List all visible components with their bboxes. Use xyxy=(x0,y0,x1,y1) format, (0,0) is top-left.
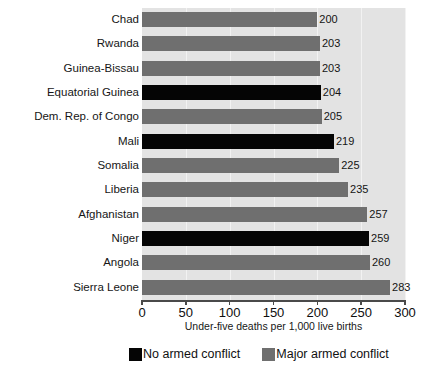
bar-value-label: 257 xyxy=(367,206,387,222)
bar-value-label: 200 xyxy=(317,11,337,27)
category-label: Afghanistan xyxy=(0,203,139,226)
bar-row: 257 xyxy=(142,203,405,226)
category-label: Chad xyxy=(0,8,139,31)
bar-row: 259 xyxy=(142,227,405,250)
legend-label-major-armed-conflict: Major armed conflict xyxy=(275,348,389,361)
bar-value-label: 204 xyxy=(321,84,341,100)
x-tick-label-250: 250 xyxy=(350,305,372,321)
bar-mali[interactable] xyxy=(142,134,334,149)
category-label: Dem. Rep. of Congo xyxy=(0,105,139,128)
bar-value-label: 219 xyxy=(334,133,354,149)
category-label: Niger xyxy=(0,227,139,250)
bar-value-label: 205 xyxy=(322,108,342,124)
bar-row: 260 xyxy=(142,251,405,274)
category-label: Equatorial Guinea xyxy=(0,81,139,104)
category-label: Rwanda xyxy=(0,32,139,55)
category-label: Sierra Leone xyxy=(0,276,139,299)
legend-entry-no-armed-conflict[interactable]: No armed conflict xyxy=(129,348,240,361)
legend-entry-major-armed-conflict[interactable]: Major armed conflict xyxy=(262,348,389,361)
bar-niger[interactable] xyxy=(142,231,369,246)
bar-liberia[interactable] xyxy=(142,182,348,197)
x-tick-label-150: 150 xyxy=(263,305,285,321)
x-tick-label-300: 300 xyxy=(394,305,416,321)
bar-value-label: 225 xyxy=(339,157,359,173)
gridline-300 xyxy=(405,8,406,300)
x-tick-label-50: 50 xyxy=(179,305,193,321)
category-label: Mali xyxy=(0,130,139,153)
category-label: Somalia xyxy=(0,154,139,177)
chart-legend: No armed conflict Major armed conflict xyxy=(129,345,409,363)
bar-rwanda[interactable] xyxy=(142,36,320,51)
bar-angola[interactable] xyxy=(142,255,370,270)
bar-value-label: 259 xyxy=(369,230,389,246)
x-axis-ticks: 050100150200250300 xyxy=(142,300,405,320)
bar-row: 235 xyxy=(142,178,405,201)
bar-value-label: 235 xyxy=(348,181,368,197)
bar-row: 203 xyxy=(142,32,405,55)
legend-label-no-armed-conflict: No armed conflict xyxy=(142,348,240,361)
bar-somalia[interactable] xyxy=(142,158,339,173)
x-tick-label-100: 100 xyxy=(219,305,241,321)
bar-row: 283 xyxy=(142,276,405,299)
bar-value-label: 283 xyxy=(390,279,410,295)
category-axis-labels: ChadRwandaGuinea-BissauEquatorial Guinea… xyxy=(0,8,139,300)
bar-equatorial-guinea[interactable] xyxy=(142,85,321,100)
x-tick-label-200: 200 xyxy=(306,305,328,321)
bar-dem-rep-of-congo[interactable] xyxy=(142,109,322,124)
chart-figure: ChadRwandaGuinea-BissauEquatorial Guinea… xyxy=(0,0,421,375)
legend-swatch-icon-major-armed-conflict xyxy=(262,348,275,361)
bar-value-label: 203 xyxy=(320,60,340,76)
bar-row: 200 xyxy=(142,8,405,31)
category-label: Guinea-Bissau xyxy=(0,57,139,80)
bar-value-label: 260 xyxy=(370,254,390,270)
category-label: Angola xyxy=(0,251,139,274)
category-label: Liberia xyxy=(0,178,139,201)
bar-guinea-bissau[interactable] xyxy=(142,61,320,76)
bar-row: 204 xyxy=(142,81,405,104)
bar-value-label: 203 xyxy=(320,35,340,51)
bar-chad[interactable] xyxy=(142,12,317,27)
bar-series-group: 200203203204205219225235257259260283 xyxy=(142,8,405,300)
x-tick-label-0: 0 xyxy=(138,305,145,321)
x-axis-title: Under-five deaths per 1,000 live births xyxy=(142,320,405,332)
bar-row: 219 xyxy=(142,130,405,153)
bar-row: 205 xyxy=(142,105,405,128)
bar-sierra-leone[interactable] xyxy=(142,280,390,295)
bar-afghanistan[interactable] xyxy=(142,207,367,222)
bar-row: 225 xyxy=(142,154,405,177)
bar-row: 203 xyxy=(142,57,405,80)
legend-swatch-icon-no-armed-conflict xyxy=(129,348,142,361)
